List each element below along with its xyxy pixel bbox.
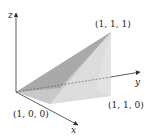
x-axis-label: x — [71, 125, 76, 135]
point-label-1-0-0: (1, 0, 0) — [13, 109, 49, 119]
z-axis-label: z — [7, 10, 13, 20]
point-label-1-1-0: (1, 1, 0) — [108, 100, 144, 110]
y-axis-label: y — [134, 77, 141, 87]
pyramid-3d-diagram: z y x (1, 1, 1) (1, 1, 0) (1, 0, 0) — [0, 0, 146, 139]
pyramid-solid — [16, 32, 111, 104]
point-label-1-1-1: (1, 1, 1) — [95, 19, 131, 29]
